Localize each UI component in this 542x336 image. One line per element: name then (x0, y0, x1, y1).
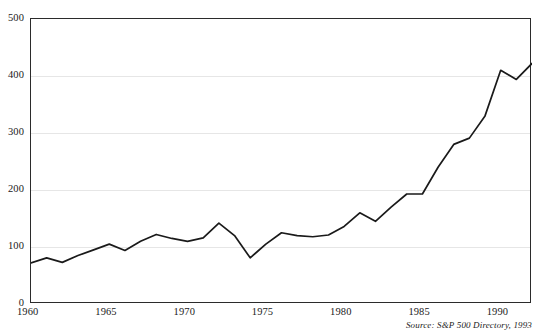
series-svg (31, 19, 532, 304)
x-tick-label-1960: 1960 (17, 306, 38, 317)
chart-figure: 0100200300400500 19601965197019751980198… (0, 0, 542, 336)
y-tick-label-500: 500 (0, 13, 24, 23)
y-axis: 0100200300400500 (0, 0, 30, 336)
y-tick-label-300: 300 (0, 127, 24, 137)
series-layer (31, 19, 530, 302)
y-tick-label-200: 200 (0, 184, 24, 194)
x-tick-label-1975: 1975 (252, 306, 273, 317)
plot-area (30, 18, 531, 303)
x-tick-label-1990: 1990 (487, 306, 508, 317)
x-tick-label-1980: 1980 (330, 306, 351, 317)
y-tick-label-400: 400 (0, 70, 24, 80)
series-line-sp500 (31, 63, 532, 263)
x-tick-label-1970: 1970 (174, 306, 195, 317)
y-tick-label-100: 100 (0, 241, 24, 251)
source-note: Source: S&P 500 Directory, 1993 (406, 320, 532, 330)
x-tick-label-1985: 1985 (408, 306, 429, 317)
x-tick-label-1965: 1965 (95, 306, 116, 317)
